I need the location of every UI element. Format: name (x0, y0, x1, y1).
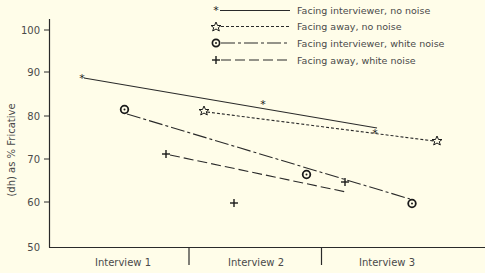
chart-canvas: 100 90 80 70 60 50 (dh) as % Fricative I… (0, 0, 485, 273)
star-icon (211, 22, 221, 31)
y-tick-label: 50 (27, 242, 40, 253)
trend-line-facing-interviewer-no-noise (84, 78, 377, 128)
y-tick-label: 80 (27, 111, 40, 122)
x-category-label: Interview 1 (95, 257, 151, 268)
trend-line-facing-away-white-noise (170, 155, 346, 192)
y-tick-label: 60 (27, 197, 40, 208)
y-tick-label: 70 (27, 154, 40, 165)
svg-text:*: * (260, 98, 266, 111)
legend-label: Facing interviewer, no noise (297, 5, 430, 16)
svg-text:*: * (372, 127, 378, 140)
legend-label: Facing away, no noise (297, 21, 402, 32)
y-tick-label: 100 (21, 25, 40, 36)
legend-label: Facing away, white noise (297, 55, 416, 66)
x-category-label: Interview 3 (359, 257, 415, 268)
svg-text:*: * (79, 72, 85, 85)
star-marker (199, 106, 442, 145)
trend-line-facing-away-no-noise (207, 112, 434, 141)
x-category-label: Interview 2 (228, 257, 284, 268)
asterisk-icon: * (213, 4, 219, 17)
legend-label: Facing interviewer, white noise (297, 38, 445, 49)
plus-icon (212, 56, 220, 64)
circle-dot-icon (212, 39, 219, 46)
plus-marker (162, 150, 349, 207)
y-tick-label: 90 (27, 67, 40, 78)
legend: * Facing interviewer, no noise Facing aw… (211, 4, 445, 66)
y-axis-label: (dh) as % Fricative (6, 103, 17, 196)
y-ticks (44, 30, 50, 202)
